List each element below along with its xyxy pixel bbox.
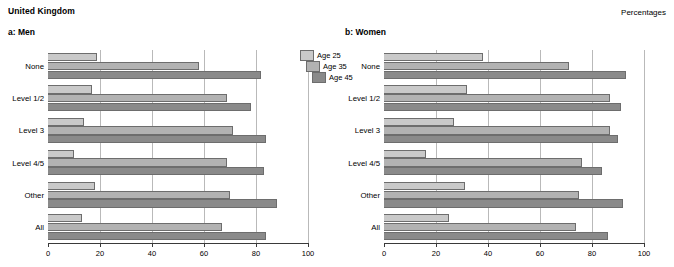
grid-line <box>644 50 645 243</box>
bar-age-25 <box>384 182 465 190</box>
bar-age-35 <box>48 158 227 166</box>
bar-age-25 <box>384 214 449 222</box>
y-axis-category-label: Other <box>25 190 45 199</box>
bar-age-25 <box>384 53 483 61</box>
bar-age-25 <box>48 85 92 93</box>
x-axis-tick-label: 0 <box>382 249 386 258</box>
bar-age-35 <box>48 126 233 134</box>
bar-age-35 <box>384 62 569 70</box>
bar-age-25 <box>48 53 97 61</box>
chart-figure: United Kingdom Percentages a: Men 020406… <box>0 0 674 267</box>
bar-age-25 <box>48 118 84 126</box>
panel-women: b: Women 020406080100 NoneLevel 1/2Level… <box>337 0 674 267</box>
legend-swatch-age-45-icon <box>312 72 326 83</box>
bar-age-25 <box>48 182 95 190</box>
x-axis-tick-label: 60 <box>536 249 544 258</box>
bar-age-45 <box>48 71 261 79</box>
bar-age-35 <box>48 223 222 231</box>
panel-women-title: b: Women <box>345 27 386 37</box>
bar-age-45 <box>48 167 264 175</box>
y-axis-category-label: Level 3 <box>355 126 380 135</box>
legend-swatch-age-35-icon <box>306 61 320 72</box>
axis-tick <box>308 243 309 247</box>
axis-tick <box>644 243 645 247</box>
bar-age-25 <box>384 150 426 158</box>
x-axis-line <box>384 243 644 244</box>
y-axis-category-label: None <box>25 62 44 71</box>
bar-age-45 <box>48 135 266 143</box>
x-axis-tick-label: 20 <box>432 249 440 258</box>
bar-age-35 <box>384 158 582 166</box>
bar-age-45 <box>48 232 266 240</box>
bar-age-45 <box>384 103 621 111</box>
bar-age-25 <box>48 214 82 222</box>
x-axis-tick-label: 80 <box>252 249 260 258</box>
x-axis-line <box>48 243 308 244</box>
bar-age-45 <box>384 71 626 79</box>
plot-area-men: 020406080100 <box>48 50 308 243</box>
legend-swatch-age-25-icon <box>300 50 314 61</box>
bar-age-35 <box>384 223 576 231</box>
bar-age-35 <box>48 94 227 102</box>
y-axis-category-label: Level 1/2 <box>348 94 380 103</box>
y-axis-category-label: Level 3 <box>19 126 44 135</box>
x-axis-tick-label: 20 <box>96 249 104 258</box>
y-axis-category-label: All <box>35 222 44 231</box>
x-axis-tick-label: 100 <box>302 249 315 258</box>
bar-age-35 <box>48 191 230 199</box>
bar-age-35 <box>384 94 610 102</box>
bar-age-25 <box>384 118 454 126</box>
plot-area-women: 020406080100 <box>384 50 644 243</box>
y-axis-category-label: Level 4/5 <box>348 158 380 167</box>
x-axis-tick-label: 80 <box>588 249 596 258</box>
y-axis-category-label: Level 1/2 <box>12 94 44 103</box>
bar-age-35 <box>384 191 579 199</box>
x-axis-tick-label: 40 <box>148 249 156 258</box>
bar-age-45 <box>48 103 251 111</box>
bar-age-45 <box>384 167 602 175</box>
x-axis-tick-label: 40 <box>484 249 492 258</box>
panel-men-title: a: Men <box>8 27 35 37</box>
bar-age-25 <box>48 150 74 158</box>
bar-age-35 <box>48 62 199 70</box>
y-axis-category-label: Level 4/5 <box>12 158 44 167</box>
bar-age-45 <box>384 232 608 240</box>
bar-age-45 <box>384 135 618 143</box>
y-axis-category-label: Other <box>361 190 381 199</box>
x-axis-tick-label: 60 <box>200 249 208 258</box>
bar-age-35 <box>384 126 610 134</box>
bar-age-25 <box>384 85 467 93</box>
y-axis-category-label: All <box>371 222 380 231</box>
x-axis-tick-label: 100 <box>638 249 651 258</box>
bar-age-45 <box>48 199 277 207</box>
panel-men: a: Men 020406080100 Age 25 Age 35 Age 45… <box>0 0 337 267</box>
y-axis-category-label: None <box>361 62 380 71</box>
bar-age-45 <box>384 199 623 207</box>
x-axis-tick-label: 0 <box>46 249 50 258</box>
